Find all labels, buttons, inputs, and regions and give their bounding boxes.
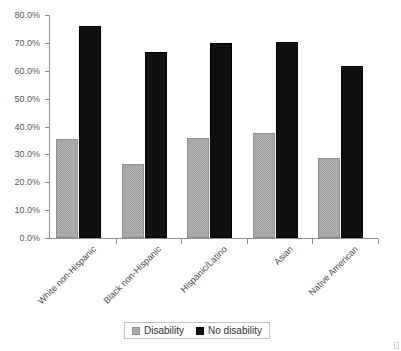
- y-axis-tick-label: 0.0%: [19, 234, 40, 243]
- legend-label: No disability: [208, 325, 262, 336]
- y-axis-tick-mark: [45, 15, 50, 16]
- x-axis-tick-label-text: Native American: [307, 244, 360, 297]
- corner-marker: [394, 342, 399, 349]
- bar-disability[interactable]: [318, 158, 340, 238]
- y-axis-tick-mark: [45, 71, 50, 72]
- x-axis-tick-label-text: Hispanic/Latino: [178, 244, 229, 295]
- legend-item[interactable]: Disability: [132, 325, 184, 336]
- y-axis-tick-label: 80.0%: [14, 11, 40, 20]
- bar-group: [116, 15, 182, 238]
- x-axis-tick-mark: [247, 239, 248, 244]
- x-axis-tick-mark: [181, 239, 182, 244]
- chart-legend: DisabilityNo disability: [124, 322, 270, 339]
- x-axis-tick-label-text: White non-Hispanic: [36, 244, 98, 306]
- bar-group: [312, 15, 378, 238]
- x-axis-category-labels: White non-HispanicBlack non-HispanicHisp…: [50, 244, 378, 314]
- bar-group: [50, 15, 116, 238]
- y-axis-tick-mark: [45, 99, 50, 100]
- y-axis-tick-label: 60.0%: [14, 66, 40, 75]
- y-axis-tick-label: 70.0%: [14, 38, 40, 47]
- y-axis-tick-label: 20.0%: [14, 178, 40, 187]
- black-swatch-icon: [196, 327, 204, 335]
- y-axis-tick-label: 50.0%: [14, 94, 40, 103]
- y-axis-tick-mark: [45, 43, 50, 44]
- y-axis-tick-mark: [45, 154, 50, 155]
- bar-no-disability[interactable]: [210, 43, 232, 238]
- x-axis-tick-mark: [378, 239, 379, 244]
- gray-swatch-icon: [132, 327, 140, 335]
- y-axis-tick-mark: [45, 127, 50, 128]
- y-axis-tick-label: 40.0%: [14, 122, 40, 131]
- bar-no-disability[interactable]: [145, 52, 167, 238]
- x-axis-tick-label-text: Black non-Hispanic: [102, 244, 164, 306]
- y-axis-tick-mark: [45, 210, 50, 211]
- plot-area: [50, 15, 378, 238]
- legend-item[interactable]: No disability: [196, 325, 262, 336]
- bar-disability[interactable]: [56, 139, 78, 238]
- bar-group: [247, 15, 313, 238]
- y-axis-tick-label: 10.0%: [14, 206, 40, 215]
- y-axis-tick-label: 30.0%: [14, 150, 40, 159]
- bar-no-disability[interactable]: [341, 66, 363, 238]
- x-axis-tick-mark: [312, 239, 313, 244]
- x-axis-tick-label-text: Asian: [272, 244, 295, 267]
- y-axis-tick-mark: [45, 182, 50, 183]
- bar-chart: 0.0%10.0%20.0%30.0%40.0%50.0%60.0%70.0%8…: [0, 0, 401, 351]
- legend-label: Disability: [144, 325, 184, 336]
- y-axis-tick-mark: [45, 238, 50, 239]
- bar-no-disability[interactable]: [276, 42, 298, 238]
- x-axis-tick-mark: [116, 239, 117, 244]
- bar-no-disability[interactable]: [79, 26, 101, 238]
- bar-group: [181, 15, 247, 238]
- y-axis-tick-labels: 0.0%10.0%20.0%30.0%40.0%50.0%60.0%70.0%8…: [0, 10, 44, 242]
